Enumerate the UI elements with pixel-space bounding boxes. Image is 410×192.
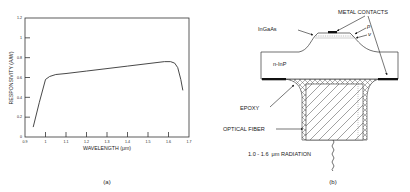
plot-frame — [25, 18, 189, 137]
metal-contacts-label: METAL CONTACTS — [338, 9, 388, 15]
photodiode-cross-section: METAL CONTACTS InGaAs p ν n-InP EPOXY OP… — [205, 0, 410, 192]
responsivity-chart: 0.911.11.21.31.41.51.61.700.20.40.60.811… — [0, 0, 205, 192]
radiation-unit: μm RADIATION — [272, 151, 311, 157]
y-tick-label: 0 — [20, 135, 22, 139]
n-inp-label: n-InP — [273, 61, 287, 67]
chart-ticks: 0.911.11.21.31.41.51.61.700.20.40.60.811… — [17, 16, 192, 144]
y-tick-label: 0.4 — [17, 96, 22, 100]
responsivity-curve — [33, 62, 183, 127]
y-tick-label: 0.2 — [17, 115, 22, 119]
y-tick-label: 0.8 — [17, 56, 22, 60]
x-tick-label: 1.5 — [146, 140, 151, 144]
x-axis-label: WAVELENGTH (μm) — [83, 145, 131, 151]
photodiode-diagram-panel: METAL CONTACTS InGaAs p ν n-InP EPOXY OP… — [205, 0, 410, 192]
x-tick-label: 1.4 — [125, 140, 130, 144]
y-tick-label: 0.6 — [17, 76, 22, 80]
y-axis-label: RESPONSIVITY (A/W) — [8, 51, 14, 104]
y-tick-label: 1.2 — [17, 16, 22, 20]
radiation-wave-icon — [332, 140, 334, 171]
optical-fiber-label: OPTICAL FIBER — [223, 126, 265, 132]
caption-b: (b) — [329, 179, 336, 185]
top-metal-contact — [328, 31, 337, 33]
bottom-contact-right — [378, 78, 398, 80]
nu-layer-label: ν — [368, 31, 371, 37]
y-tick-label: 1 — [20, 36, 22, 40]
x-tick-label: 1.6 — [166, 140, 171, 144]
bottom-contact-left — [262, 78, 286, 80]
x-tick-label: 0.9 — [23, 140, 28, 144]
x-tick-label: 1.2 — [84, 140, 89, 144]
x-tick-label: 1.7 — [187, 140, 192, 144]
x-tick-label: 1.3 — [105, 140, 110, 144]
radiation-label: 1.0 - 1.6 μm RADIATION — [248, 151, 311, 157]
n-inp-substrate — [261, 33, 398, 79]
radiation-range: 1.0 - 1.6 — [248, 151, 269, 157]
p-layer-label: p — [366, 23, 371, 29]
epoxy-label: EPOXY — [240, 105, 260, 111]
caption-a: (a) — [103, 179, 110, 185]
ingaas-label: InGaAs — [258, 26, 277, 32]
responsivity-chart-panel: 0.911.11.21.31.41.51.61.700.20.40.60.811… — [0, 0, 205, 192]
x-tick-label: 1 — [45, 140, 47, 144]
x-tick-label: 1.1 — [64, 140, 69, 144]
chart-axes — [25, 18, 189, 137]
